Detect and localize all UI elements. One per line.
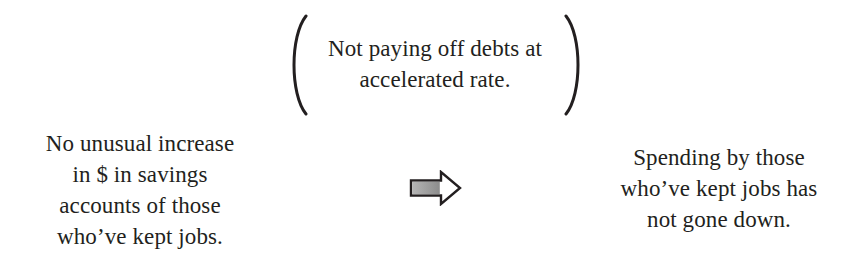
conclusion-text: Spending by those who’ve kept jobs has n…	[590, 142, 845, 235]
right-parenthesis-icon	[562, 14, 586, 116]
premise-line-3: accounts of those	[10, 190, 270, 221]
note-line-1: Not paying off debts at	[305, 33, 565, 64]
parenthetical-note: Not paying off debts at accelerated rate…	[305, 33, 565, 95]
note-line-2: accelerated rate.	[305, 64, 565, 95]
premise-line-4: who’ve kept jobs.	[10, 221, 270, 252]
conclusion-line-1: Spending by those	[590, 142, 845, 173]
conclusion-line-2: who’ve kept jobs has	[590, 173, 845, 204]
premise-line-1: No unusual increase	[10, 128, 270, 159]
premise-line-2: in $ in savings	[10, 159, 270, 190]
conclusion-line-3: not gone down.	[590, 204, 845, 235]
premise-text: No unusual increase in $ in savings acco…	[10, 128, 270, 252]
right-block-arrow-icon	[409, 170, 463, 206]
